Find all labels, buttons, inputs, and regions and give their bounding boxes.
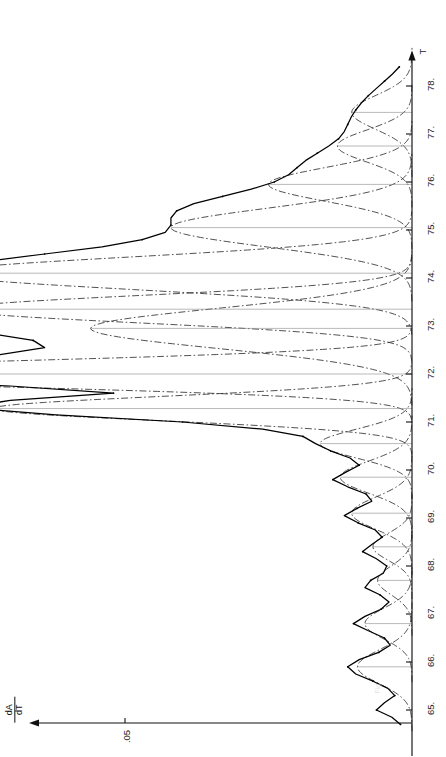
derivative-melting-curve-plot: [0, 0, 446, 757]
x-axis-tick-label: 69.: [425, 503, 436, 531]
x-axis-tick-label: 74.: [425, 263, 436, 291]
caption-fragment: Fig. 2.: [371, 681, 446, 694]
x-axis-tick-label: 70.: [425, 455, 436, 483]
x-axis-tick-label: 66.: [425, 647, 436, 675]
y-axis-denominator: dT: [16, 697, 25, 723]
x-axis-tick-label: 72.: [425, 359, 436, 387]
x-axis-tick-label: 76.: [425, 167, 436, 195]
experimental-curve-group: [0, 67, 401, 725]
x-axis-tick-label: 68.: [425, 551, 436, 579]
x-axis-tick-label: 78.: [425, 71, 436, 99]
axis-ticks-group: [125, 86, 412, 723]
x-axis-tick-label: 77.: [425, 119, 436, 147]
x-axis-tick-label: 73.: [425, 311, 436, 339]
y-axis-label: dA dT: [5, 697, 24, 723]
x-axis-tick-label: 71.: [425, 407, 436, 435]
x-axis-title: T: [417, 48, 428, 54]
figure-container: 65.66.67.68.69.70.71.72.73.74.75.76.77.7…: [0, 0, 446, 757]
axis-lines-group: [29, 51, 416, 756]
x-axis-tick-label: 75.: [425, 215, 436, 243]
x-axis-tick-label: 67.: [425, 599, 436, 627]
y-axis-tick-label: .05: [121, 724, 132, 750]
x-axis-tick-label: 65.: [425, 695, 436, 723]
